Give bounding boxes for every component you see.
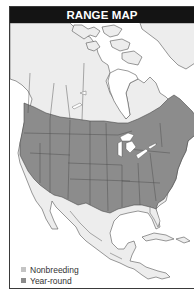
legend-label: Nonbreeding (30, 265, 79, 275)
nonbreeding-swatch (21, 267, 26, 272)
legend-item-year-round: Year-round (21, 275, 79, 286)
north-america-map (10, 23, 194, 289)
range-map-title: RANGE MAP (10, 7, 194, 23)
legend-item-nonbreeding: Nonbreeding (21, 264, 79, 275)
map-legend: Nonbreeding Year-round (21, 264, 79, 286)
year-round-swatch (21, 278, 26, 283)
legend-label: Year-round (30, 276, 72, 286)
range-map-panel: RANGE MAP (9, 6, 194, 289)
